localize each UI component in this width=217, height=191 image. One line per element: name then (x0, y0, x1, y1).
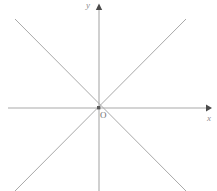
origin-label: O (100, 111, 107, 120)
x-axis-label: x (207, 114, 211, 123)
x-axis-arrowhead-icon (206, 105, 212, 112)
y-axis-label: y (86, 1, 90, 10)
coordinate-plane-diagram: y x O (0, 0, 217, 191)
y-axis-arrowhead-icon (96, 4, 102, 11)
diagram-canvas (0, 0, 217, 191)
origin-dot (97, 106, 100, 109)
